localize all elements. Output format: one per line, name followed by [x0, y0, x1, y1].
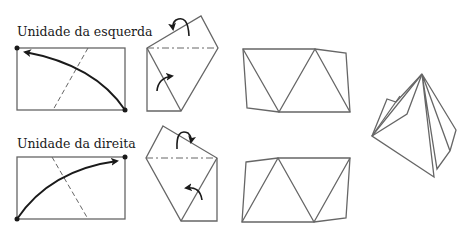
right-step3-unit	[242, 158, 350, 222]
origami-diagram	[0, 0, 471, 234]
left-step1-rectangle	[15, 46, 128, 113]
right-step1-rectangle	[15, 155, 128, 222]
left-step3-unit	[243, 49, 350, 112]
left-step2-fold	[147, 16, 218, 111]
assembled-pyramid	[372, 74, 456, 177]
right-step2-fold	[146, 126, 217, 221]
